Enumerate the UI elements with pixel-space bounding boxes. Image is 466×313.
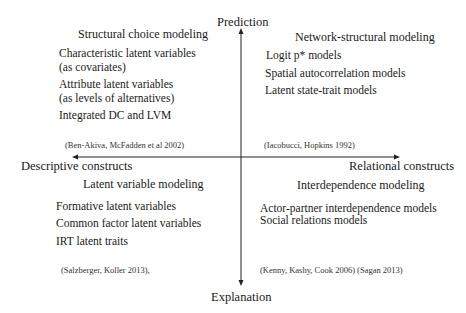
list-item: Spatial autocorrelation models	[265, 68, 406, 80]
axis-label-prediction: Prediction	[217, 16, 268, 29]
list-item: Latent state-trait models	[265, 85, 377, 97]
list-item: Formative latent variables	[56, 201, 176, 213]
list-item: Characteristic latent variables	[59, 48, 196, 60]
quadrant-title: Structural choice modeling	[78, 28, 208, 40]
axis-label-relational: Relational constructs	[349, 160, 454, 173]
axis-label-descriptive: Descriptive constructs	[21, 160, 132, 173]
reference-citation: (Salzberger, Koller 2013),	[61, 266, 150, 275]
list-item: (as covariates)	[59, 62, 126, 74]
list-item: Attribute latent variables	[59, 79, 173, 91]
quadrant-title: Network-structural modeling	[295, 31, 435, 43]
axis-label-explanation: Explanation	[211, 291, 271, 304]
list-item: Integrated DC and LVM	[59, 110, 171, 122]
list-item: IRT latent traits	[56, 236, 128, 248]
list-item: Social relations models	[260, 215, 367, 227]
arrow-down-icon	[239, 280, 244, 286]
quadrant-title: Interdependence modeling	[297, 179, 425, 191]
list-item: Logit p* models	[266, 50, 341, 62]
reference-citation: (Ben-Akiva, McFadden et al 2002)	[65, 141, 184, 150]
list-item: Common factor latent variables	[56, 218, 201, 230]
reference-citation: (Iacobucci, Hopkins 1992)	[264, 141, 355, 150]
reference-citation: (Kenny, Kashy, Cook 2006) (Sagan 2013)	[260, 266, 403, 275]
quadrant-title: Latent variable modeling	[83, 178, 204, 190]
list-item: (as levels of alternatives)	[59, 93, 174, 105]
list-item: Actor-partner interdependence models	[260, 203, 437, 215]
